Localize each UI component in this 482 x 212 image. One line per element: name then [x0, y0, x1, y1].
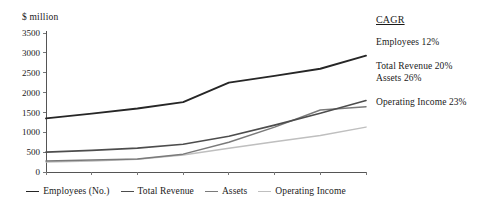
cagr-heading: CAGR: [376, 14, 482, 25]
chart-legend: Employees (No.)Total RevenueAssetsOperat…: [0, 186, 372, 196]
series-line: [46, 107, 366, 161]
cagr-entry: Employees 12%: [376, 36, 482, 49]
y-axis-tick-label: 2000: [22, 88, 41, 98]
cagr-annotations: CAGR Employees 12%Total Revenue 20%Asset…: [376, 14, 482, 108]
y-axis-tick-label: 1500: [22, 108, 41, 118]
plot-area: 0500100015002000250030003500199819992000…: [0, 26, 372, 178]
y-axis-tick-label: 0: [36, 167, 41, 177]
legend-swatch: [26, 191, 39, 192]
y-axis-title: $ million: [22, 12, 58, 22]
series-line: [46, 56, 366, 119]
chart-figure: $ million 050010001500200025003000350019…: [0, 0, 482, 212]
legend-swatch: [258, 191, 271, 192]
legend-swatch: [121, 191, 134, 192]
legend-item[interactable]: Employees (No.): [26, 186, 109, 196]
legend-label: Total Revenue: [138, 186, 194, 196]
cagr-entry: Assets 26%: [376, 72, 482, 85]
y-axis-tick-label: 3500: [22, 28, 41, 38]
legend-item[interactable]: Total Revenue: [121, 186, 194, 196]
y-axis-tick-label: 2500: [22, 68, 41, 78]
legend-label: Operating Income: [275, 186, 345, 196]
legend-swatch: [205, 191, 218, 192]
series-line: [46, 101, 366, 153]
legend-label: Assets: [222, 186, 247, 196]
y-axis-tick-label: 500: [27, 147, 41, 157]
legend-item[interactable]: Assets: [205, 186, 247, 196]
line-chart-svg: 0500100015002000250030003500199819992000…: [0, 26, 372, 178]
y-axis-tick-label: 3000: [22, 48, 41, 58]
y-axis-tick-label: 1000: [22, 127, 41, 137]
series-line: [46, 127, 366, 162]
cagr-entry-list: Employees 12%Total Revenue 20%Assets 26%…: [376, 36, 482, 108]
legend-item[interactable]: Operating Income: [258, 186, 345, 196]
legend-label: Employees (No.): [43, 186, 109, 196]
cagr-entry: Operating Income 23%: [376, 96, 482, 109]
cagr-entry: Total Revenue 20%: [376, 60, 482, 73]
